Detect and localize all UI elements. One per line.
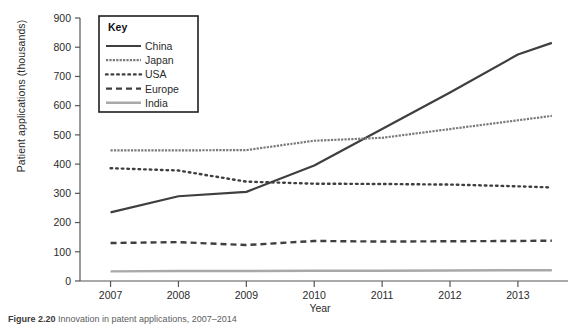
x-axis-tick-label: 2010 [303,289,327,301]
figure-caption-label: Figure 2.20 [8,314,56,324]
y-axis-tick-label: 300 [53,187,71,199]
legend-label-japan: Japan [145,54,174,66]
legend-label-usa: USA [145,68,167,80]
legend-title: Key [108,21,127,33]
x-axis-tick-label: 2009 [235,289,259,301]
series-line-japan [111,116,552,150]
legend-label-europe: Europe [145,83,179,95]
figure-caption: Figure 2.20 Innovation in patent applica… [8,314,568,324]
series-line-europe [111,241,552,245]
x-axis-tick-label: 2011 [371,289,394,301]
x-axis-tick-label: 2012 [438,289,462,301]
y-axis-tick-label: 0 [65,275,71,287]
legend: KeyChinaJapanUSAEuropeIndia [99,16,198,112]
x-axis-tick-label: 2007 [99,289,123,301]
series-line-usa [111,168,552,187]
line-chart: 0100200300400500600700800900200720082009… [0,0,575,326]
series-line-india [111,270,552,271]
y-axis-tick-label: 800 [53,41,71,53]
y-axis-tick-label: 600 [53,99,71,111]
y-axis-tick-label: 900 [53,12,71,24]
x-axis-title: Year [309,302,331,314]
y-axis-tick-label: 400 [53,158,71,170]
x-axis-tick-label: 2013 [506,289,530,301]
y-axis-tick-label: 100 [53,246,71,258]
x-axis-tick-label: 2008 [167,289,191,301]
legend-label-india: India [145,97,168,109]
y-axis-tick-label: 500 [53,129,71,141]
figure-caption-text: Innovation in patent applications, 2007–… [58,314,237,324]
y-axis-tick-label: 200 [53,216,71,228]
figure-container: Patient applications (thousands) 0100200… [0,0,575,326]
legend-label-china: China [145,40,173,52]
y-axis-tick-label: 700 [53,70,71,82]
